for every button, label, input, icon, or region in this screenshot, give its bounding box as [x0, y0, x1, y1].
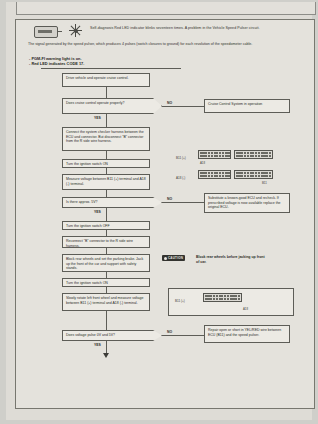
flow-no-line-1: [162, 106, 204, 107]
connector-lead-label-1: B11 (+): [176, 156, 186, 160]
connector-lead-label-2: A18 (-): [176, 176, 185, 180]
flow-step-s9: Block rear wheels and set the parking br…: [62, 254, 150, 272]
flow-label-no-1: NO: [166, 101, 173, 105]
flow-step-s10: Turn the ignition switch ON: [62, 278, 150, 287]
diagram-frame: Self-diagnosis Red LED indicator blinks …: [15, 19, 315, 409]
flow-decision-s12: Does voltage pulse 0V and 5V?: [62, 330, 162, 341]
flow-decision-s6: Is there approx. 5V?: [62, 197, 162, 208]
caution-badge: CAUTION: [162, 255, 185, 261]
flow-label-yes-3: YES: [93, 343, 102, 347]
flow-connector-6: [106, 208, 107, 221]
flow-step-s4: Turn the ignition switch ON: [62, 159, 150, 168]
connector-block-c3a: [203, 293, 242, 302]
symptom-list: - PGM-FI warning light is on. - Red LED …: [29, 56, 189, 67]
connector-cap-a-1: A18: [200, 161, 205, 165]
flow-no-line-2: [162, 202, 204, 203]
flow-branch-b1: Cruise Control System in operation: [204, 99, 290, 113]
connector-cap-a-3: A18: [243, 307, 248, 311]
flow-terminal-arrow: [103, 353, 109, 358]
scanned-sheet: Self-diagnosis Red LED indicator blinks …: [6, 2, 312, 420]
flow-branch-b3: Repair open or short in YEL/RED wire bet…: [204, 325, 290, 343]
symptom-underline: [41, 68, 181, 69]
connector-block-c2a: [198, 170, 231, 179]
icon-connector-dash: [58, 31, 62, 32]
flow-connector-3: [106, 151, 107, 159]
connector-block-c1a: [198, 150, 231, 159]
code-title: Self-diagnosis Red LED indicator blinks …: [90, 26, 310, 31]
connector-cap-b-2: B11: [262, 181, 267, 185]
led-indicator-icon: [34, 26, 58, 38]
flow-branch-b2: Substitute a known-good ECU and recheck.…: [204, 193, 290, 213]
flow-step-s1: Drive vehicle and operate cruise control…: [62, 73, 150, 87]
flow-label-yes-1: YES: [93, 116, 102, 120]
flow-connector-5: [106, 190, 107, 197]
connector-block-c2b: [234, 170, 273, 179]
flow-label-yes-2: YES: [93, 210, 102, 214]
flow-connector-11: [106, 311, 107, 330]
connector-block-c1b: [234, 150, 273, 159]
flow-connector-1: [106, 87, 107, 98]
flow-connector-12: [106, 341, 107, 353]
flow-label-no-2: NO: [166, 197, 173, 201]
flow-connector-2: [106, 114, 107, 127]
flow-step-s8: Reconnect "B" connector to the R side wi…: [62, 236, 150, 248]
flow-no-line-3: [162, 335, 204, 336]
flow-decision-s2: Does cruise control operate properly?: [62, 98, 162, 114]
caution-text: Block rear wheels before jacking up fron…: [196, 255, 266, 264]
flow-label-no-3: NO: [166, 330, 173, 334]
symptom-item-1: - Red LED indicates CODE 17.: [29, 61, 189, 66]
flow-step-s7: Turn the ignition switch OFF: [62, 221, 150, 230]
warning-lamp-icon: [69, 24, 82, 37]
flow-step-s11: Slowly rotate left front wheel and measu…: [62, 293, 150, 311]
code-description: The signal generated by the speed pulser…: [28, 42, 312, 47]
page-background: Self-diagnosis Red LED indicator blinks …: [0, 0, 318, 424]
page-top-margin-strip: [16, 2, 316, 15]
flow-step-s3: Connect the system checker harness betwe…: [62, 127, 150, 151]
connector-diagram-c3: B11 (+) A18: [168, 288, 294, 316]
flow-step-s5: Measure voltage between B11 (+) terminal…: [62, 174, 150, 190]
connector-lead-label-3: B11 (+): [175, 299, 185, 303]
